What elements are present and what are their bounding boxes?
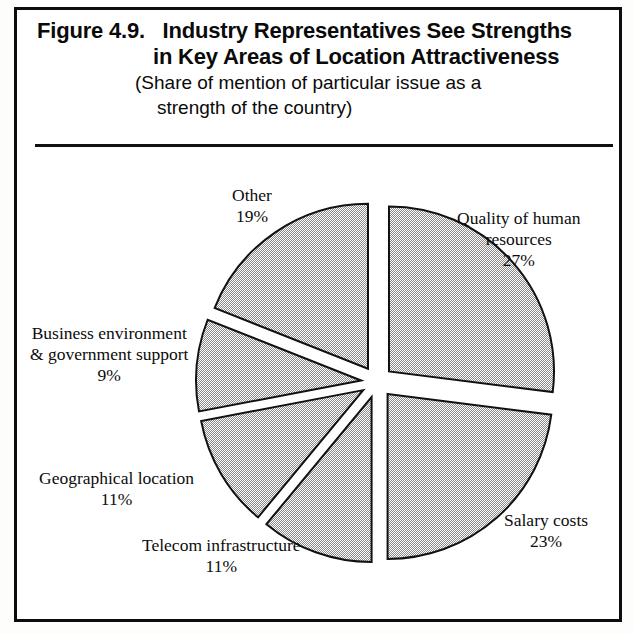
pie-label-salary-costs: Salary costs 23%: [504, 510, 588, 552]
figure-title-text-1: Industry Representatives See Strengths: [163, 18, 572, 43]
title-divider-rule: [35, 144, 613, 147]
figure-number: Figure 4.9.: [37, 18, 145, 43]
pie-label-telecom-infrastructure: Telecom infrastructure 11%: [142, 535, 301, 577]
figure-container: Figure 4.9. Industry Representatives See…: [0, 0, 634, 634]
pie-label-salary-pct: 23%: [504, 531, 588, 552]
pie-label-business-environment: Business environment & government suppor…: [30, 323, 188, 386]
pie-label-geographical-pct: 11%: [39, 489, 194, 510]
pie-label-telecom-pct: 11%: [142, 556, 301, 577]
pie-label-quality-pct: 27%: [457, 250, 580, 271]
pie-chart-area: Quality of human resources 27% Salary co…: [17, 150, 619, 620]
pie-label-geographical-location: Geographical location 11%: [39, 468, 194, 510]
pie-label-geographical-name: Geographical location: [39, 468, 194, 488]
pie-label-business-pct: 9%: [30, 365, 188, 386]
figure-subtitle-line-1: (Share of mention of particular issue as…: [35, 70, 610, 95]
pie-label-quality-name-1: Quality of human: [457, 208, 580, 228]
figure-title-line-1: Figure 4.9. Industry Representatives See…: [35, 18, 610, 44]
pie-label-business-name-1: Business environment: [32, 323, 187, 343]
figure-frame: Figure 4.9. Industry Representatives See…: [14, 7, 622, 622]
pie-label-quality-name-2: resources: [486, 229, 552, 249]
pie-label-other-name: Other: [232, 185, 272, 205]
pie-label-other: Other 19%: [232, 185, 272, 227]
figure-title-line-2: in Key Areas of Location Attractiveness: [35, 44, 610, 70]
pie-label-salary-name: Salary costs: [504, 510, 588, 530]
pie-label-telecom-name: Telecom infrastructure: [142, 535, 301, 555]
figure-subtitle-line-2: strength of the country): [35, 95, 610, 120]
pie-label-quality-of-human-resources: Quality of human resources 27%: [457, 208, 580, 271]
pie-label-business-name-2: & government support: [30, 344, 188, 364]
pie-label-other-pct: 19%: [232, 206, 272, 227]
figure-title-block: Figure 4.9. Industry Representatives See…: [35, 18, 610, 120]
